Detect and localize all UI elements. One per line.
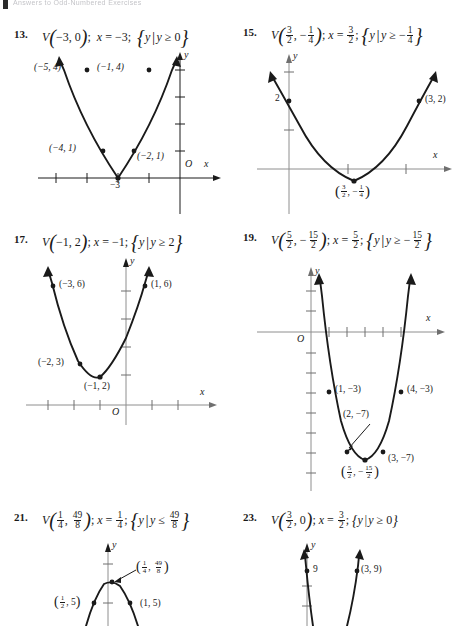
problem-21-answer: V(14, 498); x = 14; {y|y ≤ 498}: [42, 510, 189, 533]
graph21-vertex-label: (14, 498): [136, 560, 169, 576]
graph19-y-axis-label: y: [315, 265, 319, 276]
graph13-label-point-3: (−2, 1): [137, 151, 164, 161]
graph17-x-axis-label: x: [200, 386, 204, 397]
graph17-label-point-3: (1, 6): [151, 279, 172, 289]
graph21-leader-arrow: [114, 577, 121, 583]
problem-17-answer: V(−1, 2); x = −1; {y|y ≥ 2}: [42, 232, 182, 255]
graph23-curve-left: [305, 556, 313, 626]
graph17-origin-label: O: [112, 406, 119, 417]
graph23-y-axis-label: y: [311, 539, 315, 550]
graph23-label-point-2: (3, 9): [361, 564, 382, 574]
graph13-x-arrow: [213, 175, 221, 181]
graph23-curve-arrow-right: [355, 549, 364, 560]
graph17-x-arrow: [209, 402, 217, 408]
graph17-svg: [8, 253, 233, 429]
graph15-label-point-2: (3, 2): [425, 94, 446, 104]
problem-17-number: 17.: [14, 233, 28, 245]
graph15-point: [417, 99, 422, 104]
graph21: (14, 498) (12, 5) (1, 5) y: [8, 536, 233, 626]
graph21-point: [128, 601, 133, 606]
graph13-x-axis-label: x: [204, 158, 208, 169]
graph19-svg: [243, 256, 471, 494]
running-head-marker: [3, 0, 8, 9]
problem-15-number: 15.: [243, 26, 257, 38]
graph19: (1, −3) (4, −3) (2, −7) (3, −7) (52, −15…: [243, 256, 471, 494]
graph19-label-point-3: (3, −7): [388, 453, 414, 463]
graph15-point: [287, 99, 292, 104]
graph17-curve-arrow-left: [43, 266, 53, 277]
graph23-point: [355, 569, 360, 574]
graph13-point: [85, 68, 90, 73]
graph21-label-point-1: (12, 5): [54, 595, 80, 611]
problem-13-answer: V(−3, 0); x = −3; {y|y ≥ 0}: [42, 27, 188, 50]
problem-15-answer: V(32, −14); x = 32; {y|y ≥ −14}: [271, 25, 422, 48]
answer-key-page: Answers to Odd-Numbered Exercises 13. V(…: [0, 0, 473, 626]
problem-19-number: 19.: [243, 231, 257, 243]
graph23-svg: [243, 536, 471, 626]
graph15-curve: [273, 78, 433, 181]
graph17-point: [51, 284, 56, 289]
graph15-x-axis-label: x: [433, 149, 437, 160]
graph13-svg: [8, 48, 233, 218]
graph17-vertex: [97, 374, 102, 379]
graph23: 9 (3, 9) y: [243, 536, 471, 626]
graph21-label-point-2: (1, 5): [140, 598, 161, 608]
graph17-ticks: [48, 291, 178, 410]
graph19-leader-line: [349, 424, 370, 448]
graph19-label-point-4: (4, −3): [407, 384, 433, 394]
graph17: (−3, 6) (1, 6) (−2, 3) (−1, 2) O x y: [8, 253, 233, 429]
graph19-label-point-2: (2, −7): [343, 409, 369, 419]
running-head: Answers to Odd-Numbered Exercises: [0, 0, 473, 12]
graph19-point: [399, 390, 404, 395]
problem-21-number: 21.: [14, 511, 28, 523]
graph19-label-point-1: (1, −3): [335, 384, 361, 394]
graph15-ticks: [284, 72, 406, 174]
problem-13-number: 13.: [14, 28, 28, 40]
graph17-y-arrow: [123, 258, 129, 267]
graph13-label-point-2: (−4, 1): [49, 143, 76, 153]
graph15-vertex: [351, 178, 356, 183]
graph21-vertex: [110, 580, 115, 585]
graph15: 2 (3, 2) (32, −14) x y: [243, 50, 471, 218]
graph19-curve: [320, 280, 410, 460]
graph17-point: [78, 362, 83, 367]
graph17-vertex-label: (−1, 2): [84, 381, 110, 391]
graph17-point: [143, 284, 148, 289]
graph15-x-arrow: [444, 166, 452, 172]
graph19-x-arrow: [437, 329, 445, 335]
graph13-y-axis-label: y: [184, 49, 188, 60]
graph19-point: [381, 450, 386, 455]
graph19-curve-arrow-right: [406, 273, 416, 285]
graph13: (−5, 4) (−1, 4) (−4, 1) (−2, 1) −3 O x y: [8, 48, 233, 218]
graph17-label-point-2: (−2, 3): [38, 357, 64, 367]
graph21-y-axis-label: y: [112, 539, 116, 550]
problem-23-answer: V(32, 0); x = 32; {y|y ≥ 0}: [271, 510, 398, 533]
graph19-x-axis-label: x: [426, 312, 430, 323]
graph19-point: [327, 390, 332, 395]
graph23-point: [305, 569, 310, 574]
graph21-y-arrow: [105, 543, 111, 552]
graph23-curve-right: [347, 556, 359, 626]
graph21-svg: [8, 536, 233, 626]
graph13-point: [147, 68, 152, 73]
graph15-label-point-1: 2: [275, 93, 280, 103]
graph15-vertex-label: (32, −14): [335, 184, 370, 201]
graph17-y-axis-label: y: [130, 255, 134, 266]
graph19-vertex-label: (52, −152): [341, 465, 379, 481]
graph17-label-point-1: (−3, 6): [59, 279, 85, 289]
graph17-curve-arrow-right: [144, 266, 154, 277]
graph21-point: [92, 601, 97, 606]
problem-19-answer: V(52, −152); x = 52; {y|y ≥ −152}: [271, 230, 432, 253]
graph13-point: [101, 149, 106, 154]
problem-23-number: 23.: [243, 511, 257, 523]
graph13-axes: [38, 56, 218, 214]
graph19-vertex: [362, 457, 367, 462]
graph15-y-axis-label: y: [293, 50, 297, 61]
running-head-text: Answers to Odd-Numbered Exercises: [13, 0, 142, 6]
graph13-point: [132, 149, 137, 154]
graph19-origin-label: O: [297, 333, 304, 344]
graph13-label-point-4: (−1, 4): [97, 62, 124, 72]
graph19-y-arrow: [308, 267, 314, 276]
graph13-origin-label: O: [185, 158, 192, 169]
graph13-xtick-label: −3: [110, 180, 120, 190]
